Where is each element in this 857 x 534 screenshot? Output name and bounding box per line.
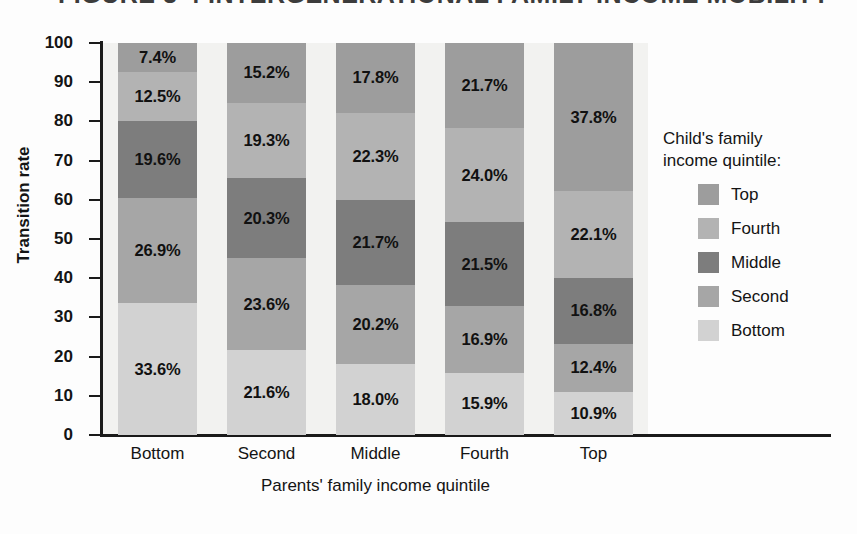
legend-item[interactable]: Second	[663, 286, 853, 307]
y-axis-tick	[89, 81, 100, 83]
bar-segment-value-label: 16.8%	[571, 301, 617, 320]
bar-segment-value-label: 22.1%	[571, 225, 617, 244]
bar-segment[interactable]: 21.7%	[445, 43, 524, 128]
y-axis-tick	[89, 277, 100, 279]
bar-segment-value-label: 12.5%	[135, 87, 181, 106]
legend-item[interactable]: Top	[663, 184, 853, 205]
bar-segment[interactable]: 17.8%	[336, 43, 415, 113]
legend-title: Child's family income quintile:	[663, 128, 853, 172]
x-axis-tick-label: Second	[212, 444, 321, 464]
bar-segment-value-label: 10.9%	[571, 404, 617, 423]
bar-segment[interactable]: 26.9%	[118, 198, 197, 303]
bar-stack[interactable]: 15.9%16.9%21.5%24.0%21.7%	[445, 43, 524, 435]
bar-segment-value-label: 16.9%	[462, 330, 508, 349]
bar-segment-value-label: 18.0%	[353, 390, 399, 409]
legend-color-swatch	[698, 320, 719, 341]
y-axis-tick	[89, 434, 100, 436]
x-axis-title: Parents' family income quintile	[103, 476, 648, 496]
legend-item-label: Second	[731, 287, 789, 307]
legend-item[interactable]: Bottom	[663, 320, 853, 341]
bar-segment-value-label: 7.4%	[139, 48, 176, 67]
bar-segment[interactable]: 7.4%	[118, 43, 197, 72]
bar-segment[interactable]: 21.5%	[445, 222, 524, 306]
bar-segment[interactable]: 22.3%	[336, 113, 415, 200]
y-axis-tick	[89, 356, 100, 358]
bar-segment[interactable]: 16.8%	[554, 278, 633, 344]
y-axis-tick	[89, 120, 100, 122]
y-axis-tick	[89, 395, 100, 397]
bar-segment[interactable]: 19.6%	[118, 121, 197, 198]
x-axis-tick-label: Fourth	[430, 444, 539, 464]
bar-segment-value-label: 22.3%	[353, 147, 399, 166]
bar-segment[interactable]: 16.9%	[445, 306, 524, 372]
bar-segment[interactable]: 20.3%	[227, 178, 306, 258]
bar-segment-value-label: 21.7%	[462, 76, 508, 95]
y-axis-title: Transition rate	[14, 85, 34, 325]
y-axis-tick-label: 100	[0, 33, 89, 53]
bar-segment-value-label: 20.2%	[353, 315, 399, 334]
y-axis-tick-label: 10	[0, 386, 89, 406]
bar-segment-value-label: 24.0%	[462, 166, 508, 185]
x-axis-tick-label: Middle	[321, 444, 430, 464]
bar-segment[interactable]: 12.4%	[554, 344, 633, 393]
y-axis-line	[100, 41, 103, 437]
bar-stack[interactable]: 10.9%12.4%16.8%22.1%37.8%	[554, 43, 633, 435]
legend-item-label: Top	[731, 185, 758, 205]
figure-title-clipped: FIGURE 3-4 INTERGENERATIONAL FAMILY INCO…	[0, 0, 857, 9]
x-axis-tick-label: Top	[539, 444, 648, 464]
y-axis-tick	[89, 42, 100, 44]
bar-segment[interactable]: 18.0%	[336, 364, 415, 435]
legend-title-line-2: income quintile:	[663, 150, 853, 172]
bar-segment-value-label: 21.5%	[462, 255, 508, 274]
bar-segment-value-label: 12.4%	[571, 358, 617, 377]
bar-segment-value-label: 37.8%	[571, 108, 617, 127]
bar-segment[interactable]: 19.3%	[227, 103, 306, 179]
bar-stack[interactable]: 33.6%26.9%19.6%12.5%7.4%	[118, 43, 197, 435]
bar-segment[interactable]: 37.8%	[554, 43, 633, 191]
y-axis-tick	[89, 160, 100, 162]
figure-title-text: FIGURE 3-4 INTERGENERATIONAL FAMILY INCO…	[58, 0, 830, 9]
y-axis-tick	[89, 316, 100, 318]
bar-stack[interactable]: 18.0%20.2%21.7%22.3%17.8%	[336, 43, 415, 435]
legend-entries: TopFourthMiddleSecondBottom	[663, 184, 853, 341]
bar-segment[interactable]: 10.9%	[554, 392, 633, 435]
legend-item-label: Bottom	[731, 321, 785, 341]
legend-color-swatch	[698, 252, 719, 273]
bar-segment-value-label: 21.6%	[244, 383, 290, 402]
bar-segment[interactable]: 23.6%	[227, 258, 306, 351]
legend-title-line-1: Child's family	[663, 128, 853, 150]
bar-segment[interactable]: 15.2%	[227, 43, 306, 103]
bar-segment[interactable]: 24.0%	[445, 128, 524, 222]
bar-segment[interactable]: 20.2%	[336, 285, 415, 364]
figure-container: FIGURE 3-4 INTERGENERATIONAL FAMILY INCO…	[0, 0, 857, 534]
bar-segment-value-label: 20.3%	[244, 209, 290, 228]
legend: Child's family income quintile: TopFourt…	[663, 128, 853, 354]
y-axis-tick	[89, 238, 100, 240]
legend-color-swatch	[698, 218, 719, 239]
bar-segment[interactable]: 15.9%	[445, 373, 524, 435]
bar-segment-value-label: 33.6%	[135, 360, 181, 379]
bar-segment[interactable]: 22.1%	[554, 191, 633, 278]
bar-segment-value-label: 23.6%	[244, 295, 290, 314]
bar-segment-value-label: 19.3%	[244, 131, 290, 150]
bar-segment-value-label: 15.9%	[462, 394, 508, 413]
bar-segment-value-label: 26.9%	[135, 241, 181, 260]
legend-item-label: Fourth	[731, 219, 780, 239]
bar-segment-value-label: 17.8%	[353, 68, 399, 87]
bar-segment-value-label: 15.2%	[244, 63, 290, 82]
y-axis-tick-label: 20	[0, 347, 89, 367]
bar-segment-value-label: 21.7%	[353, 233, 399, 252]
bar-segment[interactable]: 21.7%	[336, 200, 415, 285]
y-axis-tick-label: 0	[0, 425, 89, 445]
legend-item[interactable]: Middle	[663, 252, 853, 273]
bar-segment[interactable]: 12.5%	[118, 72, 197, 121]
bar-segment-value-label: 19.6%	[135, 150, 181, 169]
bar-segment[interactable]: 33.6%	[118, 303, 197, 435]
legend-item-label: Middle	[731, 253, 781, 273]
x-axis-tick-label: Bottom	[103, 444, 212, 464]
legend-color-swatch	[698, 184, 719, 205]
y-axis-tick	[89, 199, 100, 201]
bar-stack[interactable]: 21.6%23.6%20.3%19.3%15.2%	[227, 43, 306, 435]
legend-item[interactable]: Fourth	[663, 218, 853, 239]
bar-segment[interactable]: 21.6%	[227, 350, 306, 435]
